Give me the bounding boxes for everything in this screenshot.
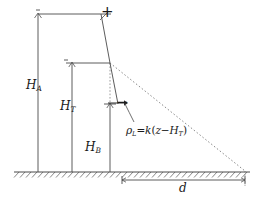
ht-extension-line [69,62,75,172]
formula-term-symbol: H [170,124,179,136]
label-distance-d: d [179,182,187,194]
hb-extension-line [104,103,116,172]
label-height-ha: HA [26,79,42,92]
label-ha-symbol: H [26,78,36,92]
label-ha-subscript: A [36,84,41,93]
formula-equals: = [136,124,145,136]
ground-hatching [14,172,247,178]
formula-close-paren: ) [183,124,187,136]
label-height-ht: HT [60,100,75,113]
label-height-hb: HB [85,141,101,154]
ht-top-chord [64,60,110,63]
label-ht-symbol: H [60,99,70,113]
label-hb-symbol: H [85,140,95,154]
top-chord [36,10,111,14]
dotted-diagonal-to-ground [110,63,245,171]
ground-line [14,172,250,178]
diagram-vector-layer [0,0,260,203]
sign-positive-label: + [101,5,114,20]
label-ht-subscript: T [70,105,75,114]
label-hb-subscript: B [95,146,100,155]
sign-negative-label: − [116,95,129,110]
formula-minus: − [161,124,170,136]
load-profile-lines [101,14,118,104]
formula-rho-expression: ρL=k(z−HT) [126,125,187,137]
figure-canvas: HA HT HB d + − ρL=k(z−HT) [0,0,260,203]
label-d-symbol: d [179,181,187,195]
